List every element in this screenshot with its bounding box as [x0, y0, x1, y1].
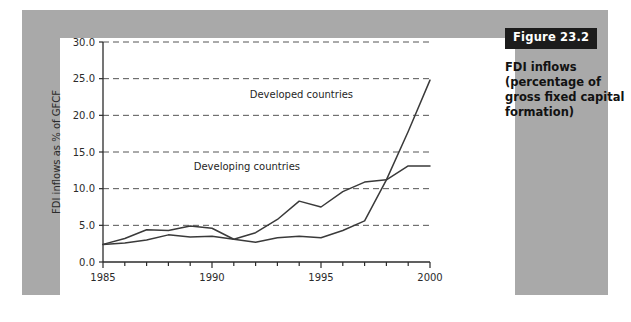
gridlines	[103, 42, 430, 225]
x-tick-label: 1985	[90, 272, 115, 283]
figure-caption-text: FDI inflows (percentage of gross fixed c…	[505, 60, 627, 121]
series-line	[103, 166, 430, 244]
y-tick-label: 30.0	[73, 37, 95, 48]
y-tick-label: 0.0	[79, 257, 95, 268]
y-tick-label: 20.0	[73, 110, 95, 121]
y-tick-label: 25.0	[73, 73, 95, 84]
y-axis-tick-labels: 0.05.010.015.020.025.030.0	[73, 37, 95, 268]
fdi-inflows-line-chart: 0.05.010.015.020.025.030.0 1985199019952…	[38, 28, 493, 285]
y-axis-title: FDI inflows as % of GFCF	[51, 90, 62, 214]
y-tick-label: 10.0	[73, 183, 95, 194]
y-tick-label: 15.0	[73, 147, 95, 158]
series-annotations: Developed countriesDeveloping countries	[194, 89, 353, 171]
figure-container: 0.05.010.015.020.025.030.0 1985199019952…	[0, 0, 631, 322]
y-tick-label: 5.0	[79, 220, 95, 231]
axis-ticks	[99, 42, 430, 268]
figure-number-badge: Figure 23.2	[505, 28, 597, 49]
series-label: Developed countries	[250, 89, 353, 100]
x-tick-label: 1995	[308, 272, 333, 283]
x-tick-label: 1990	[199, 272, 224, 283]
figure-caption-column: Figure 23.2 FDI inflows (percentage of g…	[505, 26, 623, 146]
x-tick-label: 2000	[417, 272, 442, 283]
y-axis-title-text: FDI inflows as % of GFCF	[51, 90, 62, 214]
series-label: Developing countries	[194, 161, 300, 172]
x-axis-tick-labels: 1985199019952000	[90, 272, 442, 283]
